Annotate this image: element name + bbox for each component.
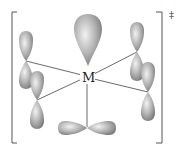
left-lower-p-orbital <box>30 71 44 129</box>
orbital-diagram: ‡ M <box>0 0 187 152</box>
top-lobe-orbital <box>74 14 102 66</box>
transition-state-symbol: ‡ <box>169 9 174 20</box>
metal-center-label: M <box>82 70 95 85</box>
left-bracket <box>12 12 17 143</box>
right-lower-p-orbital <box>141 62 155 121</box>
right-bracket <box>156 12 162 143</box>
